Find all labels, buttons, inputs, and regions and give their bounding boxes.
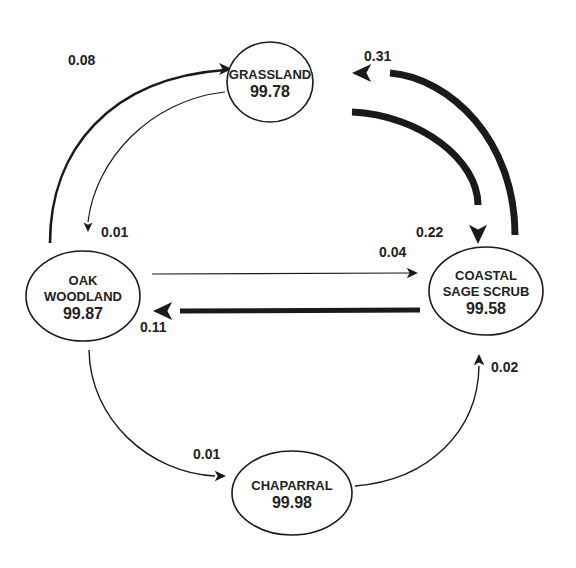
arrowhead-icon bbox=[469, 225, 487, 244]
edge-label: 0.22 bbox=[416, 224, 443, 240]
edge-label: 0.01 bbox=[101, 224, 128, 240]
edge-label: 0.08 bbox=[68, 52, 95, 68]
node-value: 99.58 bbox=[466, 300, 506, 317]
node-label: GRASSLAND bbox=[229, 67, 311, 82]
edge-coastal-to-grassland bbox=[352, 64, 515, 235]
edge-label: 0.11 bbox=[140, 319, 167, 335]
edge-coastal-to-oak bbox=[153, 302, 420, 320]
arrowhead-icon bbox=[352, 64, 371, 82]
edge-label: 0.02 bbox=[491, 359, 518, 375]
edge-label: 0.01 bbox=[193, 446, 220, 462]
node-label: SAGE SCRUB bbox=[443, 284, 530, 299]
arrowhead-icon bbox=[474, 354, 485, 365]
node-value: 99.78 bbox=[250, 83, 290, 100]
node-value: 99.87 bbox=[63, 305, 103, 322]
edge-oak-to-grassland bbox=[50, 63, 232, 243]
node-label: OAK bbox=[69, 273, 99, 288]
node-ellipse bbox=[232, 451, 352, 535]
arrowhead-icon bbox=[84, 222, 93, 232]
edge-line bbox=[352, 112, 478, 205]
edge-line bbox=[355, 366, 479, 486]
edge-chaparral-to-coastal bbox=[355, 354, 484, 486]
node-grassland: GRASSLAND99.78 bbox=[227, 42, 313, 122]
node-coastal-sage-scrub: COASTALSAGE SCRUB99.58 bbox=[429, 247, 543, 335]
node-value: 99.98 bbox=[272, 494, 312, 511]
node-label: CHAPARRAL bbox=[251, 478, 332, 493]
edge-label: 0.31 bbox=[364, 48, 391, 64]
edge-line bbox=[50, 70, 225, 243]
edge-oak-to-coastal bbox=[152, 268, 418, 279]
edge-label: 0.04 bbox=[379, 244, 406, 260]
node-chaparral: CHAPARRAL99.98 bbox=[232, 451, 352, 535]
edge-grassland-to-oak bbox=[84, 92, 226, 232]
habitat-transition-diagram: GRASSLAND99.78OAKWOODLAND99.87COASTALSAG… bbox=[0, 0, 576, 568]
arrowhead-icon bbox=[153, 302, 172, 320]
node-label: COASTAL bbox=[455, 268, 517, 283]
arrowhead-icon bbox=[215, 471, 226, 482]
node-oak-woodland: OAKWOODLAND99.87 bbox=[26, 251, 140, 341]
node-label: WOODLAND bbox=[44, 289, 122, 304]
edge-line bbox=[180, 310, 420, 311]
edge-line bbox=[152, 273, 410, 274]
node-ellipse bbox=[227, 42, 313, 122]
